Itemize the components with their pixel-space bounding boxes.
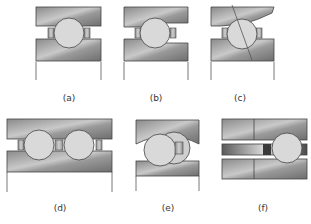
inner-race bbox=[7, 151, 112, 172]
separator bbox=[175, 142, 183, 154]
separator-dark bbox=[263, 144, 271, 155]
lower-race bbox=[222, 159, 307, 179]
panel-a: (a) bbox=[36, 7, 101, 103]
separator bbox=[96, 140, 102, 150]
separator bbox=[170, 28, 176, 38]
panel-c: (c) bbox=[211, 5, 274, 103]
separator bbox=[48, 28, 54, 38]
ball bbox=[140, 18, 170, 48]
ball bbox=[24, 130, 54, 160]
panel-label-e: (e) bbox=[162, 203, 175, 213]
panel-label-f: (f) bbox=[258, 203, 268, 213]
panel-label-c: (c) bbox=[234, 93, 246, 103]
panel-b: (b) bbox=[124, 7, 188, 103]
panel-d: (d) bbox=[7, 119, 112, 213]
separator bbox=[84, 28, 90, 38]
outer-race bbox=[7, 119, 112, 139]
panel-label-b: (b) bbox=[150, 93, 163, 103]
ball bbox=[64, 130, 94, 160]
ball bbox=[227, 19, 257, 49]
ball bbox=[272, 133, 302, 163]
panel-label-a: (a) bbox=[63, 93, 76, 103]
ball bbox=[54, 18, 84, 48]
separator bbox=[18, 140, 24, 150]
panel-e: (e) bbox=[136, 120, 199, 213]
panel-label-d: (d) bbox=[54, 203, 67, 213]
ball-front bbox=[144, 134, 176, 166]
separator bbox=[55, 140, 63, 150]
panel-f: (f) bbox=[222, 119, 307, 213]
bearing-diagram: (a) (b) (c) (d) bbox=[0, 0, 311, 224]
